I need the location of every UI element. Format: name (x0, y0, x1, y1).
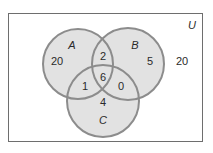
set-b-label: B (131, 39, 138, 51)
region-a-and-b: 2 (100, 50, 106, 62)
set-a-label: A (67, 39, 75, 51)
region-a-and-c: 1 (82, 80, 88, 92)
venn-diagram: U A B C 20 5 20 2 6 1 0 4 (0, 0, 213, 153)
region-b-and-c: 0 (118, 80, 124, 92)
region-a-b-c: 6 (100, 71, 106, 83)
region-c-only: 4 (100, 96, 106, 108)
set-c-label: C (99, 114, 107, 126)
region-outside: 20 (176, 55, 188, 67)
region-a-only: 20 (51, 55, 63, 67)
region-b-only: 5 (147, 55, 153, 67)
universe-label: U (188, 19, 196, 31)
